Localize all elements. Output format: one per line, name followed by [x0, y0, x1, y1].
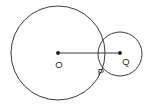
- geometry-canvas: O P Q: [0, 0, 147, 107]
- point-label-p: P: [98, 66, 104, 77]
- point-label-q: Q: [122, 56, 129, 67]
- point-label-o: O: [55, 59, 62, 70]
- center-dot-o: [56, 51, 60, 55]
- geometry-figure: O P Q: [0, 0, 147, 107]
- center-dot-q: [118, 51, 122, 55]
